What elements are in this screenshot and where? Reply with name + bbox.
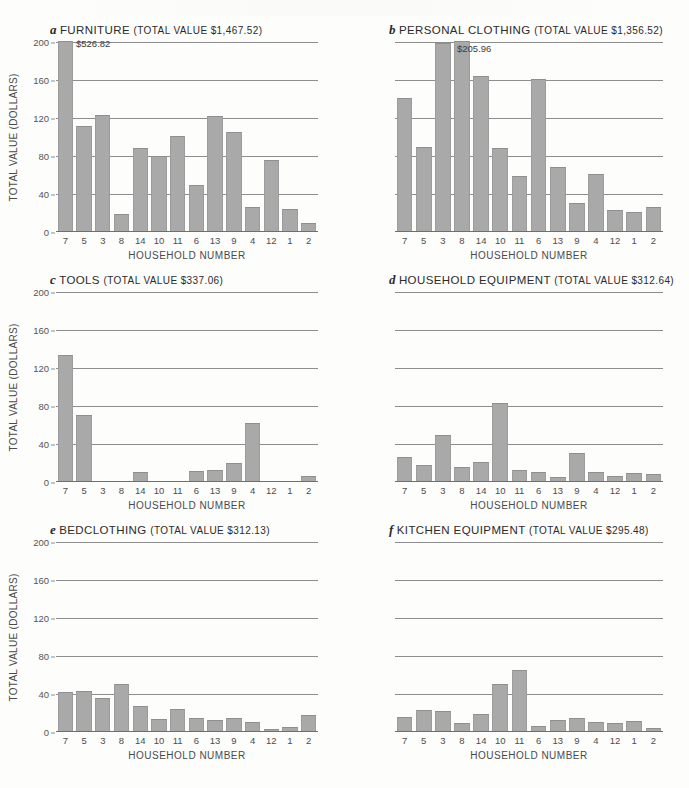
bar-household-7[interactable] (397, 717, 413, 731)
bar-household-1[interactable] (626, 212, 642, 231)
bar-household-9[interactable] (226, 132, 241, 231)
bar-cell (224, 41, 243, 231)
bar-household-3[interactable] (435, 43, 451, 231)
bar-household-10[interactable] (151, 719, 166, 731)
x-tick-10: 10 (491, 485, 510, 496)
y-tick-0: 0 (44, 227, 49, 238)
bar-cell (187, 541, 206, 731)
bar-household-3[interactable] (95, 115, 110, 231)
x-tick-9: 9 (567, 485, 586, 496)
bar-household-2[interactable] (301, 223, 316, 231)
bar-household-8[interactable] (114, 684, 129, 731)
x-tick-2: 2 (299, 235, 318, 246)
bar-cell (472, 541, 491, 731)
bar-household-10[interactable] (492, 403, 508, 481)
bar-series (56, 291, 318, 481)
bar-household-6[interactable] (189, 471, 204, 481)
bar-household-14[interactable] (473, 76, 489, 231)
x-tick-6: 6 (529, 235, 548, 246)
bar-household-11[interactable] (170, 136, 185, 231)
bar-cell (644, 291, 663, 481)
x-tick-3: 3 (433, 485, 452, 496)
bar-household-8[interactable] (454, 723, 470, 731)
bar-series (395, 291, 663, 481)
bar-household-7[interactable] (397, 98, 413, 231)
bar-household-9[interactable] (569, 203, 585, 231)
bar-household-13[interactable] (550, 720, 566, 731)
panel-total-value: (TOTAL VALUE $1,467.52) (134, 25, 263, 36)
bar-household-12[interactable] (607, 210, 623, 231)
bar-household-4[interactable] (245, 423, 260, 481)
bar-household-6[interactable] (189, 718, 204, 731)
bar-household-5[interactable] (76, 415, 91, 482)
bar-household-14[interactable] (473, 462, 489, 481)
bar-household-5[interactable] (76, 126, 91, 231)
bar-household-13[interactable] (207, 720, 222, 731)
bar-household-1[interactable] (282, 209, 297, 231)
bar-household-7[interactable] (58, 355, 73, 481)
bar-household-2[interactable] (301, 476, 316, 481)
bar-household-11[interactable] (170, 709, 185, 731)
x-axis-line (395, 481, 663, 482)
bar-household-3[interactable] (95, 698, 110, 731)
bar-household-12[interactable] (607, 723, 623, 731)
bar-household-4[interactable] (245, 722, 260, 731)
bar-cell (491, 541, 510, 731)
bar-household-5[interactable] (416, 147, 432, 231)
bar-household-6[interactable] (531, 726, 547, 731)
bar-household-12[interactable] (607, 476, 623, 481)
bar-household-6[interactable] (189, 185, 204, 231)
bar-household-14[interactable] (133, 472, 148, 482)
bar-household-5[interactable] (416, 465, 432, 481)
bar-household-1[interactable] (626, 721, 642, 731)
bar-household-4[interactable] (588, 722, 604, 731)
bar-household-4[interactable] (245, 207, 260, 231)
x-tick-5: 5 (75, 735, 94, 746)
bar-household-10[interactable] (151, 156, 166, 231)
bar-household-11[interactable] (512, 176, 528, 231)
bar-household-3[interactable] (435, 711, 451, 731)
bar-household-6[interactable] (531, 472, 547, 482)
bar-household-1[interactable] (282, 727, 297, 731)
bar-cell (150, 41, 169, 231)
bar-cell (567, 541, 586, 731)
bar-household-8[interactable] (454, 467, 470, 481)
bar-household-2[interactable] (646, 474, 662, 481)
bar-household-10[interactable] (492, 684, 508, 731)
bar-household-7[interactable] (58, 41, 73, 231)
panel-total-value: (TOTAL VALUE $1,356.52) (534, 25, 663, 36)
bar-household-9[interactable] (226, 463, 241, 481)
bar-household-12[interactable] (264, 729, 279, 731)
bar-household-6[interactable] (531, 79, 547, 231)
bar-household-14[interactable] (133, 706, 148, 731)
bar-household-13[interactable] (207, 470, 222, 481)
bar-household-2[interactable] (646, 728, 662, 731)
bar-cell (433, 291, 452, 481)
bar-household-10[interactable] (492, 148, 508, 231)
bar-household-13[interactable] (550, 477, 566, 481)
bar-household-3[interactable] (435, 435, 451, 481)
bar-household-7[interactable] (58, 692, 73, 731)
bar-household-5[interactable] (76, 691, 91, 731)
bar-household-11[interactable] (512, 470, 528, 481)
x-tick-9: 9 (224, 485, 243, 496)
bar-household-5[interactable] (416, 710, 432, 731)
bar-household-2[interactable] (301, 715, 316, 731)
bar-household-14[interactable] (133, 148, 148, 231)
bar-household-14[interactable] (473, 714, 489, 731)
bar-household-12[interactable] (264, 160, 279, 231)
bar-household-9[interactable] (569, 718, 585, 731)
bar-household-8[interactable] (454, 41, 470, 231)
bar-household-8[interactable] (114, 214, 129, 231)
bar-household-11[interactable] (512, 670, 528, 731)
bar-household-2[interactable] (646, 207, 662, 231)
bar-household-13[interactable] (550, 167, 566, 231)
bar-household-4[interactable] (588, 472, 604, 481)
bar-household-4[interactable] (588, 174, 604, 231)
bar-household-7[interactable] (397, 457, 413, 481)
x-tick-11: 11 (510, 235, 529, 246)
bar-household-9[interactable] (569, 453, 585, 482)
bar-household-9[interactable] (226, 718, 241, 731)
bar-household-13[interactable] (207, 116, 222, 231)
bar-household-1[interactable] (626, 473, 642, 481)
